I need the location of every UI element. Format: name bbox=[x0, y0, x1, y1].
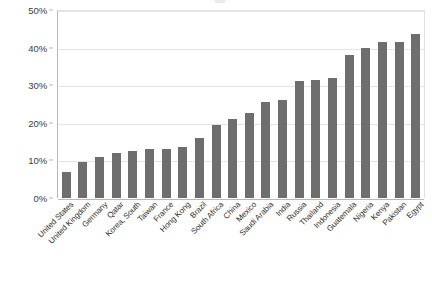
bar[interactable] bbox=[411, 34, 420, 198]
bar[interactable] bbox=[212, 125, 221, 198]
bars-layer bbox=[58, 10, 424, 198]
bar[interactable] bbox=[162, 149, 171, 198]
y-axis-tick-mark bbox=[49, 47, 53, 48]
y-axis-tick-label: 20% bbox=[28, 117, 47, 128]
bar[interactable] bbox=[145, 149, 154, 198]
y-axis-tick-mark bbox=[49, 85, 53, 86]
bar[interactable] bbox=[112, 153, 121, 198]
y-axis-tick-label: 0% bbox=[33, 193, 47, 204]
y-axis: 0%10%20%30%40%50% bbox=[0, 0, 54, 208]
y-axis-tick-mark bbox=[49, 160, 53, 161]
y-axis-tick-label: 40% bbox=[28, 42, 47, 53]
y-axis-tick-label: 50% bbox=[28, 5, 47, 16]
y-axis-tick-label: 10% bbox=[28, 155, 47, 166]
bar[interactable] bbox=[195, 138, 204, 198]
bar[interactable] bbox=[62, 172, 71, 198]
bar[interactable] bbox=[261, 102, 270, 198]
cropped-title-artifact bbox=[215, 0, 225, 3]
bar[interactable] bbox=[295, 81, 304, 198]
bar[interactable] bbox=[395, 42, 404, 198]
bar[interactable] bbox=[228, 119, 237, 198]
y-axis-tick-mark bbox=[49, 198, 53, 199]
y-axis-tick-mark bbox=[49, 10, 53, 11]
bar-chart: 0%10%20%30%40%50% United StatesUnited Ki… bbox=[0, 0, 432, 296]
bar[interactable] bbox=[245, 113, 254, 198]
x-axis: United StatesUnited KingdomGermanyQatarK… bbox=[58, 200, 424, 296]
bar[interactable] bbox=[95, 157, 104, 198]
bar[interactable] bbox=[178, 147, 187, 198]
bar[interactable] bbox=[328, 78, 337, 198]
y-axis-tick-label: 30% bbox=[28, 80, 47, 91]
bar[interactable] bbox=[361, 48, 370, 198]
bar[interactable] bbox=[378, 42, 387, 198]
bar[interactable] bbox=[128, 151, 137, 198]
bar[interactable] bbox=[278, 100, 287, 198]
bar[interactable] bbox=[78, 162, 87, 198]
bar[interactable] bbox=[311, 80, 320, 198]
bar[interactable] bbox=[345, 55, 354, 198]
y-axis-tick-mark bbox=[49, 122, 53, 123]
x-axis-tick-label: Egypt bbox=[405, 200, 425, 220]
